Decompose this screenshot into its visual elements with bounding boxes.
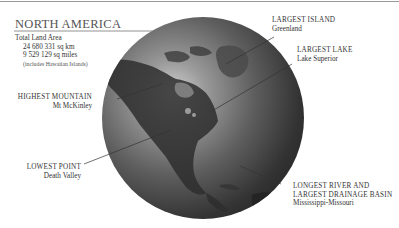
callout-lowest-point: LOWEST POINT Death Valley xyxy=(27,163,81,180)
land-area-note: (includes Hawaiian Islands) xyxy=(15,60,88,69)
callout-value: Mt McKinley xyxy=(18,102,92,111)
land-area-label: Total Land Area xyxy=(15,34,88,43)
top-border-rule xyxy=(0,1,399,2)
callout-value: Greenland xyxy=(272,25,335,34)
callout-largest-lake: LARGEST LAKE Lake Superior xyxy=(297,46,353,63)
callout-value: Lake Superior xyxy=(297,55,353,64)
callout-value: Mississippi-Missouri xyxy=(293,199,392,208)
callout-highest-mountain: HIGHEST MOUNTAIN Mt McKinley xyxy=(18,93,92,110)
land-area-miles: 9 529 129 sq miles xyxy=(15,51,88,60)
callout-heading: LOWEST POINT xyxy=(27,163,81,172)
land-area-km: 24 680 331 sq km xyxy=(15,43,88,52)
callout-largest-island: LARGEST ISLAND Greenland xyxy=(272,16,335,33)
callout-heading: LARGEST ISLAND xyxy=(272,16,335,25)
callout-heading: HIGHEST MOUNTAIN xyxy=(18,93,92,102)
north-america-landmass-icon xyxy=(102,17,304,219)
callout-heading-line1: LONGEST RIVER AND xyxy=(293,182,392,191)
page-title: NORTH AMERICA xyxy=(15,17,121,32)
callout-heading: LARGEST LAKE xyxy=(297,46,353,55)
callout-longest-river: LONGEST RIVER AND LARGEST DRAINAGE BASIN… xyxy=(293,182,392,208)
land-area-stats: Total Land Area 24 680 331 sq km 9 529 1… xyxy=(15,34,88,68)
callout-heading-line2: LARGEST DRAINAGE BASIN xyxy=(293,191,392,200)
globe-map xyxy=(102,17,304,219)
callout-value: Death Valley xyxy=(27,172,81,181)
